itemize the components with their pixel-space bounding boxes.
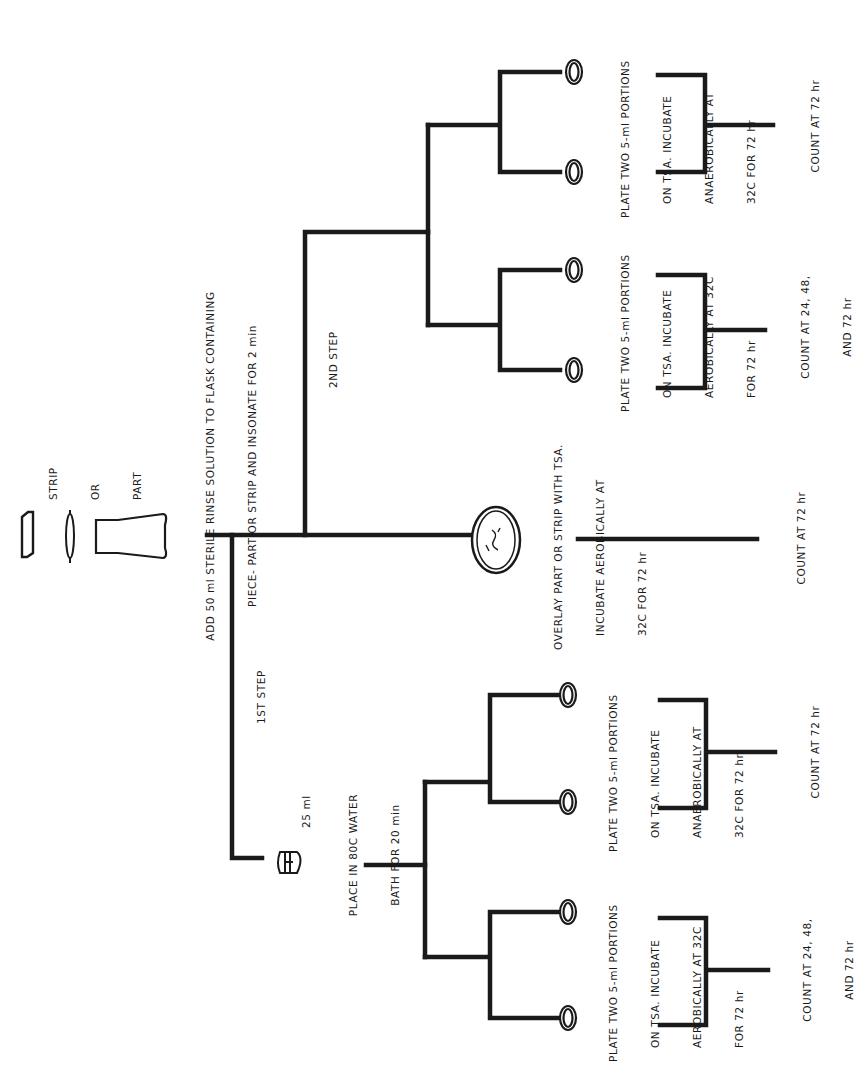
overlay-plate-icon: [472, 507, 520, 573]
count-text: COUNT AT 72 hr: [808, 66, 822, 186]
second-step-label-text: 2ND STEP: [327, 331, 339, 388]
second-step-anaerobic-line3: ANAEROBICALLY AT: [702, 60, 716, 218]
second-step-aerobic-line2: ON TSA. INCUBATE: [660, 254, 674, 412]
first-step-aerobic-count: COUNT AT 24, 48, AND 72 hr: [772, 905, 858, 1035]
first-step-anaerobic-line3: ANAEROBICALLY AT: [690, 694, 704, 852]
root-instruction: ADD 50 ml STERILE RINSE SOLUTION TO FLAS…: [175, 246, 273, 686]
second-step-aerobic-line3: AEROBICALLY AT 32C: [702, 254, 716, 412]
tube-volume: 25 ml: [285, 795, 313, 836]
second-step-aerobic-line1: PLATE TWO 5-ml PORTIONS: [618, 254, 632, 412]
second-step-anaerobic-fork: [428, 72, 560, 172]
water-bath-instruction: PLACE IN 80C WATER BATH FOR 20 min: [318, 780, 416, 930]
root-instruction-line1: ADD 50 ml STERILE RINSE SOLUTION TO FLAS…: [203, 246, 217, 686]
first-step-anaerobic-instruction: PLATE TWO 5-ml PORTIONS ON TSA. INCUBATE…: [578, 694, 760, 852]
first-step-anaerobic-line1: PLATE TWO 5-ml PORTIONS: [606, 694, 620, 852]
first-step-anaerobic-count: COUNT AT 72 hr: [780, 692, 836, 812]
test-tube-icon: [278, 852, 301, 873]
first-step-anaerobic-line4: 32C FOR 72 hr: [732, 694, 746, 852]
legend-strip: STRIP: [46, 467, 60, 500]
legend-or: OR: [88, 467, 102, 500]
overlay-line2: INCUBATE AEROBICALLY AT: [593, 444, 607, 650]
strip-icon: [22, 512, 33, 557]
first-step-aerobic-line3: AEROBICALLY AT 32C: [690, 904, 704, 1062]
second-step-aerobic-count: COUNT AT 24, 48, AND 72 hr: [770, 262, 858, 392]
water-bath-line2: BATH FOR 20 min: [388, 780, 402, 930]
second-step-anaerobic-instruction: PLATE TWO 5-ml PORTIONS ON TSA. INCUBATE…: [590, 60, 772, 218]
second-step-aerobic-line4: FOR 72 hr: [744, 254, 758, 412]
count-text: COUNT AT 72 hr: [794, 478, 808, 598]
first-step-anaerobic-fork: [425, 695, 560, 802]
second-step-aerobic-instruction: PLATE TWO 5-ml PORTIONS ON TSA. INCUBATE…: [590, 254, 772, 412]
legend-part: PART: [130, 467, 144, 500]
first-step-anaerobic-line2: ON TSA. INCUBATE: [648, 694, 662, 852]
tube-volume-text: 25 ml: [300, 795, 312, 828]
first-step-aerobic-line2: ON TSA. INCUBATE: [648, 904, 662, 1062]
count-text: COUNT AT 72 hr: [808, 692, 822, 812]
second-step-anaerobic-line1: PLATE TWO 5-ml PORTIONS: [618, 60, 632, 218]
part-icon: [66, 510, 74, 563]
count-text-line2: AND 72 hr: [840, 262, 854, 392]
count-text-line2: AND 72 hr: [842, 905, 856, 1035]
first-step-aerobic-line4: FOR 72 hr: [732, 904, 746, 1062]
first-step-label: 1ST STEP: [240, 670, 268, 732]
root-instruction-line2: PIECE- PART OR STRIP AND INSONATE FOR 2 …: [245, 246, 259, 686]
first-step-aerobic-instruction: PLATE TWO 5-ml PORTIONS ON TSA. INCUBATE…: [578, 904, 760, 1062]
second-step-label: 2ND STEP: [312, 331, 340, 396]
count-text-line1: COUNT AT 24, 48,: [800, 905, 814, 1035]
legend-strip-or-part: STRIP OR PART: [18, 467, 158, 500]
count-text-line1: COUNT AT 24, 48,: [798, 262, 812, 392]
overlay-count: COUNT AT 72 hr: [766, 478, 822, 598]
second-step-anaerobic-count: COUNT AT 72 hr: [780, 66, 836, 186]
second-step-aerobic-fork: [428, 270, 560, 370]
second-step-anaerobic-line2: ON TSA. INCUBATE: [660, 60, 674, 218]
overlay-instruction: OVERLAY PART OR STRIP WITH TSA. INCUBATE…: [523, 444, 663, 650]
first-step-label-text: 1ST STEP: [255, 670, 267, 724]
first-step-aerobic-line1: PLATE TWO 5-ml PORTIONS: [606, 904, 620, 1062]
second-step-anaerobic-line4: 32C FOR 72 hr: [744, 60, 758, 218]
water-bath-line1: PLACE IN 80C WATER: [346, 780, 360, 930]
overlay-line3: 32C FOR 72 hr: [635, 444, 649, 650]
flask-icon: [96, 514, 166, 558]
first-step-aerobic-fork: [425, 912, 560, 1018]
overlay-line1: OVERLAY PART OR STRIP WITH TSA.: [551, 444, 565, 650]
